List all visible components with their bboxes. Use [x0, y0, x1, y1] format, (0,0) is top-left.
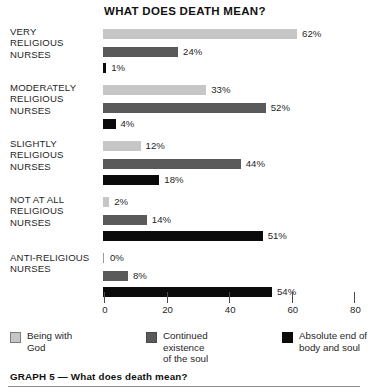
axis-tick-label: 40	[225, 304, 236, 315]
axis-tick	[292, 292, 293, 303]
axis-tick-label: 20	[162, 304, 173, 315]
bar-row: 0%	[0, 253, 371, 264]
bar-value-label: 62%	[302, 28, 321, 39]
bar-row: 12%	[0, 141, 371, 152]
bar-value-label: 44%	[246, 158, 265, 169]
bar-row: 24%	[0, 47, 371, 58]
axis-tick	[354, 292, 355, 303]
bar	[103, 103, 266, 113]
bar	[103, 29, 297, 39]
bar-value-label: 14%	[152, 214, 171, 225]
bar-value-label: 2%	[114, 196, 128, 207]
bar-row: 1%	[0, 63, 371, 74]
legend-label-line: God	[27, 342, 72, 354]
bar-row: 8%	[0, 271, 371, 282]
bar-row: 62%	[0, 29, 371, 40]
bar	[103, 63, 106, 73]
axis-tick-label: 60	[287, 304, 298, 315]
bar-row: 14%	[0, 215, 371, 226]
axis-tick	[104, 292, 105, 303]
bar	[103, 175, 159, 185]
bar-group: NOT AT ALLRELIGIOUSNURSES2%14%51%	[0, 190, 371, 242]
bar-group: SLIGHTLYRELIGIOUSNURSES12%44%18%	[0, 134, 371, 186]
bar	[103, 141, 141, 151]
bar-zero-marker	[103, 253, 104, 263]
bar-row: 18%	[0, 175, 371, 186]
legend-label-line: body and soul	[299, 342, 367, 354]
bar-row: 52%	[0, 103, 371, 114]
bar-value-label: 24%	[183, 46, 202, 57]
plot-area: VERYRELIGIOUSNURSES62%24%1%MODERATELYREL…	[0, 22, 371, 290]
legend-swatch	[282, 332, 293, 343]
caption-divider	[8, 386, 360, 387]
x-axis: 020406080	[0, 292, 371, 318]
bar	[103, 215, 147, 225]
bar-row: 51%	[0, 231, 371, 242]
bar-value-label: 52%	[271, 102, 290, 113]
bar-row: 2%	[0, 197, 371, 208]
axis-tick	[229, 292, 230, 303]
chart-title: WHAT DOES DEATH MEAN?	[104, 5, 266, 17]
axis-tick	[167, 292, 168, 303]
bar	[103, 197, 109, 207]
bar-group: VERYRELIGIOUSNURSES62%24%1%	[0, 22, 371, 74]
chart-container: WHAT DOES DEATH MEAN? VERYRELIGIOUSNURSE…	[0, 0, 371, 392]
axis-tick-label: 80	[350, 304, 361, 315]
bar-value-label: 18%	[164, 174, 183, 185]
bar-value-label: 33%	[211, 84, 230, 95]
legend-label-line: Absolute end of	[299, 330, 367, 342]
legend-label: Absolute end ofbody and soul	[299, 330, 367, 353]
bar-value-label: 4%	[121, 118, 135, 129]
bar-value-label: 8%	[133, 270, 147, 281]
legend-swatch	[10, 332, 21, 343]
legend-label: Continuedexistenceof the soul	[163, 330, 208, 365]
chart-legend: Being withGodContinuedexistenceof the so…	[0, 330, 371, 368]
bar-value-label: 51%	[268, 230, 287, 241]
bar-value-label: 1%	[111, 62, 125, 73]
axis-tick-label: 0	[102, 304, 107, 315]
bar-value-label: 12%	[146, 140, 165, 151]
bar-group: MODERATELYRELIGIOUSNURSES33%52%4%	[0, 78, 371, 130]
bar	[103, 85, 206, 95]
bar	[103, 47, 178, 57]
legend-label-line: of the soul	[163, 353, 208, 365]
bar	[103, 159, 241, 169]
bar	[103, 271, 128, 281]
legend-swatch	[146, 332, 157, 343]
bar-value-label: 0%	[110, 252, 124, 263]
legend-label-line: Continued	[163, 330, 208, 342]
bar	[103, 231, 263, 241]
bar-row: 33%	[0, 85, 371, 96]
legend-label-line: Being with	[27, 330, 72, 342]
bar-row: 4%	[0, 119, 371, 130]
legend-label-line: existence	[163, 342, 208, 354]
figure-caption: GRAPH 5 — What does death mean?	[10, 371, 188, 382]
bar-group: ANTI-RELIGIOUSNURSES0%8%54%	[0, 246, 371, 298]
bar	[103, 119, 116, 129]
legend-label: Being withGod	[27, 330, 72, 353]
bar-row: 44%	[0, 159, 371, 170]
